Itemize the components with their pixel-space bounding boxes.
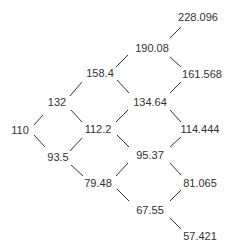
node-81-065: 81.065 — [183, 177, 217, 189]
edge — [170, 27, 181, 38]
edge — [170, 110, 181, 122]
node-93-5: 93.5 — [47, 151, 68, 163]
node-67-55: 67.55 — [136, 204, 164, 216]
edge — [71, 110, 82, 122]
node-114-444: 114.444 — [181, 123, 220, 135]
node-190-08: 190.08 — [135, 42, 169, 54]
edge — [170, 82, 181, 93]
node-112-2: 112.2 — [85, 123, 112, 135]
edge — [70, 138, 82, 151]
node-79-48: 79.48 — [84, 177, 112, 189]
node-134-64: 134.64 — [133, 96, 167, 108]
node-132: 132 — [48, 96, 66, 108]
edge — [34, 115, 43, 125]
node-228-096: 228.096 — [178, 11, 218, 23]
edge — [117, 135, 129, 147]
edge — [116, 163, 128, 176]
edge — [116, 55, 128, 67]
edge — [170, 190, 181, 201]
node-57-421: 57.421 — [183, 230, 217, 242]
edge — [170, 218, 181, 229]
edge — [116, 110, 128, 122]
edge — [117, 189, 129, 201]
node-95-37: 95.37 — [136, 149, 164, 161]
edge — [170, 57, 181, 67]
node-161-568: 161.568 — [182, 68, 222, 80]
edge — [71, 165, 83, 176]
edge — [170, 137, 181, 147]
node-158-4: 158.4 — [86, 67, 114, 79]
edge — [34, 135, 45, 147]
edge — [170, 163, 181, 175]
edge — [117, 80, 129, 93]
node-110: 110 — [11, 124, 29, 136]
edge — [70, 82, 82, 96]
